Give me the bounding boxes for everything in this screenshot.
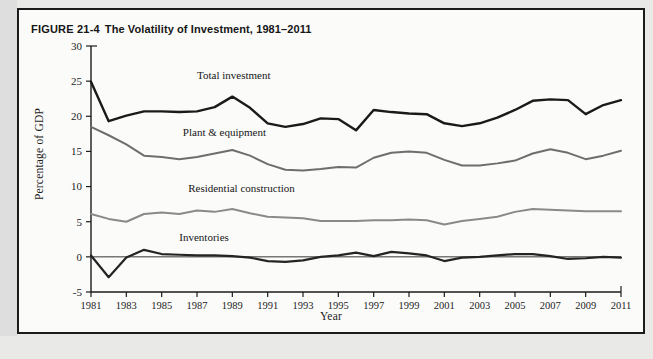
x-tick-label: 2009 <box>575 300 596 311</box>
x-tick-label: 2001 <box>434 300 455 311</box>
x-tick-label: 1993 <box>293 300 314 311</box>
figure-caption: The Volatility of Investment, 1981–2011 <box>105 23 312 35</box>
x-tick-label: 1989 <box>222 300 243 311</box>
series-line-plant-equipment <box>91 127 621 171</box>
series-line-inventories <box>91 250 621 277</box>
x-tick-label: 1991 <box>257 300 278 311</box>
page-bottom-edge <box>0 336 653 359</box>
x-tick-label: 1981 <box>81 300 102 311</box>
y-tick-label: -5 <box>73 286 83 298</box>
figure-title: FIGURE 21-4The Volatility of Investment,… <box>31 23 312 35</box>
y-tick-label: 15 <box>71 145 83 157</box>
x-tick-label: 1983 <box>116 300 137 311</box>
x-tick-label: 1985 <box>151 300 172 311</box>
data-series-group <box>91 82 621 277</box>
x-tick-label: 1987 <box>187 300 208 311</box>
series-label-plant-equipment: Plant & equipment <box>183 126 266 138</box>
series-label-inventories: Inventories <box>179 231 228 243</box>
figure-number: FIGURE 21-4 <box>31 23 100 35</box>
series-label-total-investment: Total investment <box>197 69 270 81</box>
plot-area: Percentage of GDP Year -5051015202530 19… <box>19 40 643 334</box>
line-chart: -5051015202530 1981198319851987198919911… <box>19 40 643 334</box>
y-axis-ticks: -5051015202530 <box>71 40 91 298</box>
x-tick-label: 1997 <box>363 300 384 311</box>
x-tick-label: 1995 <box>328 300 349 311</box>
y-tick-label: 20 <box>71 110 83 122</box>
x-tick-label: 2011 <box>611 300 632 311</box>
page-left-edge <box>0 0 17 359</box>
x-tick-label: 2003 <box>469 300 490 311</box>
figure-frame: FIGURE 21-4The Volatility of Investment,… <box>17 8 645 334</box>
y-tick-label: 5 <box>77 216 83 228</box>
y-tick-label: 25 <box>71 75 83 87</box>
series-label-residential-construction: Residential construction <box>188 182 295 194</box>
y-tick-label: 10 <box>71 180 83 192</box>
series-line-residential-construction <box>91 209 621 224</box>
x-tick-label: 2007 <box>540 300 561 311</box>
y-tick-label: 0 <box>77 251 83 263</box>
y-tick-label: 30 <box>71 40 83 52</box>
page-background: FIGURE 21-4The Volatility of Investment,… <box>0 0 653 359</box>
x-axis-ticks: 1981198319851987198919911993199519971999… <box>81 292 632 311</box>
x-tick-label: 2005 <box>505 300 526 311</box>
x-tick-label: 1999 <box>399 300 420 311</box>
series-line-total-investment <box>91 82 621 130</box>
